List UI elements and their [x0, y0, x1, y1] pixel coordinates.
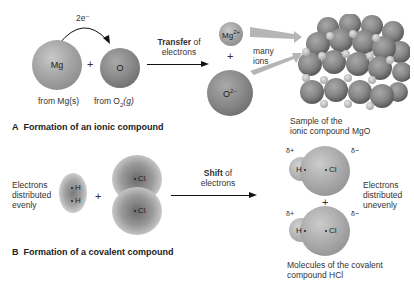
from-o2-label: from O2(g)	[94, 96, 134, 110]
electron-count-label: 2e⁻	[76, 13, 90, 23]
cl2-top-atom: Cl	[134, 174, 146, 183]
transfer-arrow-line	[147, 64, 203, 65]
hcl-bottom-cl-label: Cl	[325, 226, 337, 235]
delta-minus-bottom: δ−	[351, 210, 359, 217]
mg-ion-label: Mg2+	[222, 29, 240, 40]
hcl-top-h-label: H	[296, 165, 308, 174]
h2-bottom-atom: H	[71, 196, 81, 205]
o-atom-sphere: O	[100, 48, 140, 88]
o-ion-sphere: O2−	[207, 70, 253, 116]
caption-a: A Formation of an ionic compound	[12, 122, 164, 132]
shift-label: Shift of electrons	[190, 168, 246, 188]
mg-ion-sphere: Mg2+	[219, 22, 243, 46]
delta-minus-top: δ−	[351, 147, 359, 154]
caption-b: B Formation of a covalent compound	[12, 247, 174, 257]
mgo-sample-label: Sample of theionic compound MgO	[290, 116, 370, 136]
o-ion-label: O2−	[223, 88, 237, 99]
shift-arrow-head	[249, 192, 257, 198]
delta-plus-bottom: δ+	[286, 210, 294, 217]
from-mg-label: from Mg(s)	[38, 96, 79, 106]
plus-sign: +	[87, 58, 93, 70]
many-ions-label: manyions	[253, 46, 274, 66]
mg-atom-sphere: Mg	[32, 40, 82, 90]
hcl-top-cl-label: Cl	[325, 165, 337, 174]
plus-sign-b: +	[95, 190, 101, 202]
transfer-label: Transfer of electrons	[149, 37, 209, 57]
cl2-bottom-atom: Cl	[134, 206, 146, 215]
plus-sign-ions: +	[227, 50, 233, 62]
mg-atom-label: Mg	[51, 60, 64, 70]
hcl-bottom-h-label: H	[296, 226, 308, 235]
delta-plus-top: δ+	[286, 147, 294, 154]
transfer-arrow-head	[201, 61, 209, 67]
electrons-even-label: Electronsdistributedevenly	[12, 180, 51, 210]
hcl-molecules-label: Molecules of the covalentcompound HCl	[287, 260, 383, 280]
o-atom-label: O	[116, 63, 123, 73]
h2-top-atom: H	[71, 183, 81, 192]
mgo-lattice-image	[298, 14, 410, 116]
h2-electron-cloud	[59, 173, 87, 213]
shift-arrow-line	[171, 195, 251, 196]
electrons-uneven-label: Electronsdistributedunevenly	[363, 180, 402, 210]
